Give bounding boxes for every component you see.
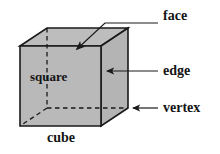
label-vertex: vertex [163, 101, 200, 115]
cube-front-face [20, 46, 101, 126]
label-cube: cube [47, 131, 75, 145]
label-face: face [163, 9, 187, 23]
cube-right-face [101, 28, 128, 126]
label-edge: edge [163, 64, 190, 78]
label-square: square [30, 70, 67, 83]
cube-diagram-figure: face edge vertex square cube [0, 0, 220, 154]
